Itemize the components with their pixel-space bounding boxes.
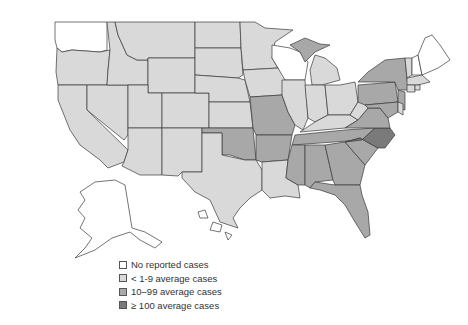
state-wa — [55, 22, 107, 52]
legend-swatch-none — [119, 261, 127, 269]
state-ks — [209, 102, 253, 128]
state-in — [305, 85, 328, 122]
state-sd — [195, 48, 243, 78]
legend-swatch-high — [119, 301, 127, 309]
state-hi-2 — [210, 222, 222, 232]
legend-item-low: < 1-9 average cases — [119, 272, 222, 286]
state-hi-3 — [225, 232, 232, 240]
state-or — [56, 48, 110, 85]
legend-swatch-mid — [119, 288, 127, 296]
state-ia — [243, 68, 285, 97]
legend-item-high: ≥ 100 average cases — [119, 299, 222, 313]
state-ma — [407, 75, 430, 85]
legend-label-low: < 1-9 average cases — [131, 273, 217, 284]
state-wy — [148, 58, 195, 93]
legend: No reported cases < 1-9 average cases 10… — [119, 258, 222, 312]
state-ar — [256, 135, 292, 162]
state-nm — [162, 128, 202, 176]
state-pa — [358, 82, 398, 105]
us-map — [0, 0, 468, 325]
state-fl — [310, 182, 370, 238]
state-ri — [415, 85, 420, 90]
legend-label-high: ≥ 100 average cases — [131, 300, 219, 311]
state-ct — [407, 85, 415, 92]
legend-label-none: No reported cases — [131, 259, 209, 270]
state-mi-lower — [310, 55, 340, 85]
state-mt — [115, 22, 195, 60]
legend-label-mid: 10–99 average cases — [131, 286, 222, 297]
state-de — [398, 102, 403, 115]
legend-item-mid: 10–99 average cases — [119, 285, 222, 299]
state-ak — [75, 180, 162, 258]
state-az — [122, 128, 162, 175]
state-hi — [198, 210, 208, 218]
legend-item-none: No reported cases — [119, 258, 222, 272]
state-nd — [195, 22, 241, 48]
legend-swatch-low — [119, 274, 127, 282]
state-co — [162, 93, 209, 128]
state-me — [418, 35, 450, 75]
